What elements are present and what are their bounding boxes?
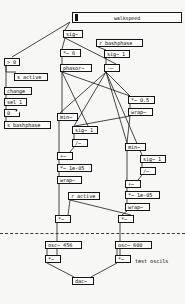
object-sel-1[interactable]: sel 1 [4,98,27,106]
box-text: +~ [128,181,134,187]
object-min-right[interactable]: min~ [125,143,146,151]
box-text: s active [17,74,41,80]
box-text: > 0 [7,59,16,65]
object-change[interactable]: change [4,87,32,95]
object-wrap-upper-right[interactable]: wrap~ [128,108,153,116]
box-text: *~ [58,216,64,222]
object-osc-456[interactable]: osc~ 456 [45,241,82,249]
object-min-left[interactable]: min~ [57,113,78,121]
object-multiply-right[interactable]: *~ [118,215,134,223]
box-text: *~ [118,256,124,262]
object-multiply-bottom-right[interactable]: *~ [115,255,131,263]
object-multiply-left[interactable]: *~ [55,215,71,223]
box-text: osc~ 456 [48,242,72,248]
object-plus-right[interactable]: +~ [125,180,141,188]
object-minus-top[interactable]: -~ [104,64,120,72]
box-text: sel 1 [7,99,22,105]
pd-patch-canvas[interactable]: walkspeed > 0 s active change sel 1 0 s … [0,0,185,304]
box-text: phasor~ [63,65,84,71]
box-text: min~ [128,144,140,150]
object-sig-1-top[interactable]: sig~ 1 [104,50,130,58]
box-text: +~ [60,153,66,159]
comment-test-oscils: test oscils [135,259,168,264]
object-osc-600[interactable]: osc~ 600 [115,241,152,249]
slider-knob[interactable] [75,14,78,21]
object-sig-1-right[interactable]: sig~ 1 [140,155,166,163]
box-text: sig~ 1 [75,127,93,133]
box-text: osc~ 600 [118,242,142,248]
object-sig-1-left[interactable]: sig~ 1 [72,126,98,134]
object-wrap-left[interactable]: wrap~ [57,176,82,184]
box-text: /~ [75,140,81,146]
box-text: wrap~ [131,109,146,115]
object-multiply-bottom-left[interactable]: *~ [45,255,61,263]
object-r-active[interactable]: r active [68,192,100,200]
box-text: *~ 0.5 [131,97,149,103]
dsp-separator [0,233,185,234]
box-text: sig~ 1 [107,51,125,57]
object-times-6[interactable]: *~ 6 [60,49,81,57]
number-box-zero[interactable]: 0 [4,109,20,117]
object-times-05[interactable]: *~ 0.5 [128,96,155,104]
box-text: 0 [7,110,10,116]
box-text: *~ 1e-05 [128,192,152,198]
object-gt0[interactable]: > 0 [4,58,20,66]
object-phasor[interactable]: phasor~ [60,64,92,72]
box-text: *~ 1e-05 [60,165,84,171]
object-times-1e-05-right[interactable]: *~ 1e-05 [125,191,160,199]
box-text: -~ [107,65,113,71]
box-text: min~ [60,114,72,120]
box-text: change [7,88,25,94]
object-dac[interactable]: dac~ [72,277,94,285]
object-divide-right[interactable]: /~ [140,167,156,175]
object-times-1e-05-left[interactable]: *~ 1e-05 [57,164,92,172]
slider-label: walkspeed [114,15,140,21]
box-text: *~ [121,216,127,222]
object-wrap-right[interactable]: wrap~ [125,203,150,211]
object-s-bashphase[interactable]: s bashphase [4,121,51,129]
slider-outlet[interactable] [72,22,75,23]
object-plus-left[interactable]: +~ [57,152,73,160]
object-divide-left[interactable]: /~ [72,139,88,147]
comment-text: test oscils [135,258,168,264]
object-r-bashphase[interactable]: r bashphase [96,39,143,47]
box-text: s bashphase [7,122,40,128]
box-text: *~ 6 [63,50,75,56]
box-text: wrap~ [128,204,143,210]
object-sig-top[interactable]: sig~ [63,30,83,38]
box-text: wrap~ [60,177,75,183]
box-text: *~ [48,256,54,262]
box-text: r active [71,193,95,199]
box-text: sig~ 1 [143,156,161,162]
box-text: /~ [143,168,149,174]
box-text: sig~ [66,31,78,37]
walkspeed-slider[interactable]: walkspeed [72,12,182,23]
object-s-active[interactable]: s active [14,73,48,81]
box-text: r bashphase [99,40,132,46]
box-text: dac~ [75,278,87,284]
